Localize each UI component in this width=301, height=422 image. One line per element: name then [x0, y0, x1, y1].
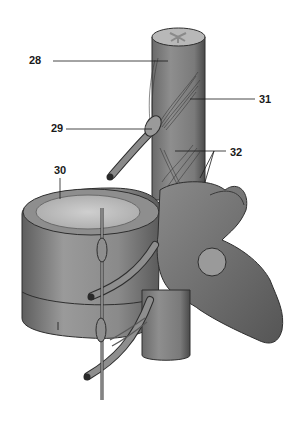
anatomical-figure: 28 29 30 31 32: [0, 0, 301, 422]
label-32: 32: [230, 146, 242, 158]
spinal-cord: [149, 28, 205, 200]
label-30: 30: [54, 164, 66, 176]
label-29: 29: [51, 122, 63, 134]
label-28: 28: [29, 54, 41, 66]
spine-illustration: [0, 0, 301, 422]
label-31: 31: [259, 93, 271, 105]
